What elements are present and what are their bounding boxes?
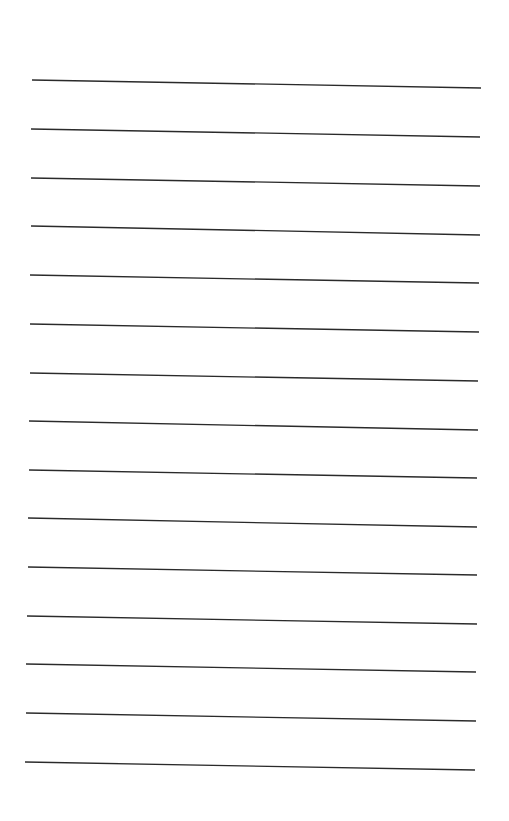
ruled-line [30, 373, 478, 381]
ruled-line [27, 616, 477, 624]
ruled-line [31, 129, 480, 137]
ruled-line [31, 226, 480, 235]
ruled-line [32, 80, 481, 88]
ruled-line [25, 762, 475, 770]
ruled-line [30, 324, 479, 332]
ruled-line [26, 664, 476, 672]
ruled-line [28, 518, 477, 527]
ruled-line [29, 470, 477, 478]
ruled-line [31, 178, 480, 186]
ruled-line [29, 421, 478, 430]
ruled-lines [0, 0, 509, 821]
ruled-line [30, 275, 479, 283]
ruled-line [26, 713, 476, 721]
lined-paper-page [0, 0, 509, 821]
ruled-line [28, 567, 477, 575]
